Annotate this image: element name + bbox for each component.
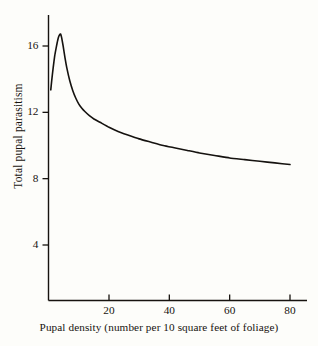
x-axis-tick-label: 80 — [277, 304, 303, 316]
x-axis-tick-label: 20 — [96, 304, 122, 316]
chart-canvas — [0, 0, 318, 346]
y-axis-title: Total pupal parasitism — [12, 36, 24, 236]
data-series-line — [51, 34, 290, 165]
x-axis-ticks — [109, 295, 290, 301]
y-axis-ticks — [43, 46, 49, 245]
y-axis-tick-label: 4 — [13, 238, 39, 250]
figure-panel: 481216 20406080 Total pupal parasitism P… — [0, 0, 318, 346]
plot-area: 481216 20406080 — [0, 0, 318, 346]
x-axis-tick-label: 40 — [156, 304, 182, 316]
x-axis-tick-label: 60 — [217, 304, 243, 316]
x-axis-title: Pupal density (number per 10 square feet… — [0, 321, 318, 333]
